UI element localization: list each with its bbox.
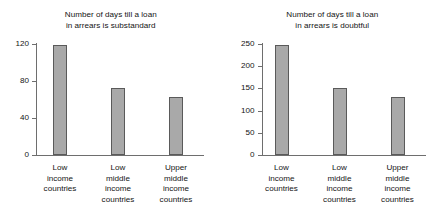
category-label-line: middle xyxy=(369,174,427,185)
category-label-line: income xyxy=(311,184,369,195)
category-label-line: Upper xyxy=(369,163,427,174)
x-axis-line xyxy=(262,155,426,156)
y-axis-tick-mark xyxy=(258,133,262,134)
category-label-line: Low xyxy=(89,163,147,174)
x-axis-line xyxy=(36,155,204,156)
x-axis-category-label: Lowincomecountries xyxy=(31,163,89,195)
category-label-line: countries xyxy=(369,195,427,206)
figure: Number of days till a loan in arrears is… xyxy=(0,0,443,214)
y-axis-tick-mark xyxy=(32,44,36,45)
y-axis-tick-label: 100 xyxy=(222,107,255,115)
y-axis-tick-label: 120 xyxy=(0,40,29,48)
y-axis-line xyxy=(36,43,37,156)
category-label-line: Low xyxy=(253,163,311,174)
y-axis-tick-label: 40 xyxy=(0,114,29,122)
y-axis-tick-mark xyxy=(32,81,36,82)
y-axis-tick-label: 50 xyxy=(222,129,255,137)
chart-panel-substandard: Number of days till a loan in arrears is… xyxy=(0,0,222,214)
y-axis-tick-label: 250 xyxy=(222,40,255,48)
category-label-line: income xyxy=(369,184,427,195)
x-axis-category-label: Uppermiddleincomecountries xyxy=(369,163,427,205)
y-axis-tick-label: 150 xyxy=(222,84,255,92)
y-axis-tick-mark xyxy=(258,44,262,45)
bar xyxy=(53,45,67,155)
chart-panel-doubtful: Number of days till a loan in arrears is… xyxy=(222,0,443,214)
bar xyxy=(391,97,405,155)
bar xyxy=(111,88,125,155)
category-label-line: middle xyxy=(311,174,369,185)
y-axis-tick-mark xyxy=(32,155,36,156)
category-label-line: income xyxy=(147,184,205,195)
category-label-line: Upper xyxy=(147,163,205,174)
y-axis-tick-mark xyxy=(258,66,262,67)
category-label-line: income xyxy=(253,174,311,185)
category-label-line: countries xyxy=(147,195,205,206)
category-label-line: Low xyxy=(311,163,369,174)
category-label-line: Low xyxy=(31,163,89,174)
category-label-line: countries xyxy=(253,184,311,195)
bar xyxy=(169,97,183,155)
category-label-line: income xyxy=(31,174,89,185)
plot-area-substandard: 04080120LowincomecountriesLowmiddleincom… xyxy=(0,0,222,214)
y-axis-tick-mark xyxy=(32,118,36,119)
y-axis-tick-label: 200 xyxy=(222,62,255,70)
category-label-line: countries xyxy=(31,184,89,195)
category-label-line: income xyxy=(89,184,147,195)
x-axis-category-label: Lowincomecountries xyxy=(253,163,311,195)
category-label-line: middle xyxy=(89,174,147,185)
y-axis-tick-mark xyxy=(258,155,262,156)
y-axis-tick-label: 0 xyxy=(0,151,29,159)
plot-area-doubtful: 050100150200250LowincomecountriesLowmidd… xyxy=(222,0,443,214)
category-label-line: countries xyxy=(89,195,147,206)
x-axis-category-label: Lowmiddleincomecountries xyxy=(89,163,147,205)
x-axis-category-label: Lowmiddleincomecountries xyxy=(311,163,369,205)
bar xyxy=(333,88,347,155)
x-axis-category-label: Uppermiddleincomecountries xyxy=(147,163,205,205)
y-axis-tick-label: 80 xyxy=(0,77,29,85)
category-label-line: countries xyxy=(311,195,369,206)
y-axis-tick-label: 0 xyxy=(222,151,255,159)
bar xyxy=(275,45,289,155)
y-axis-tick-mark xyxy=(258,88,262,89)
y-axis-tick-mark xyxy=(258,111,262,112)
y-axis-line xyxy=(262,43,263,156)
category-label-line: middle xyxy=(147,174,205,185)
